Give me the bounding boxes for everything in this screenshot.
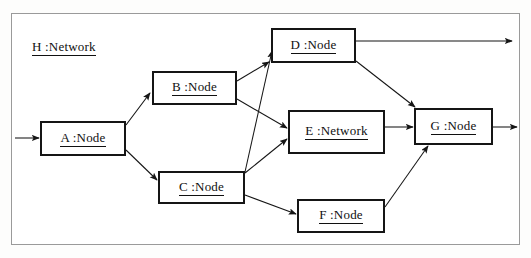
object-node-f[interactable]: F :Node	[297, 199, 385, 233]
container-label-h-network: H :Network	[32, 40, 96, 56]
object-node-label: D :Node	[291, 38, 337, 54]
object-node-g[interactable]: G :Node	[414, 108, 493, 145]
object-node-e[interactable]: E :Network	[288, 110, 385, 154]
object-node-label: F :Node	[319, 208, 363, 224]
object-node-d[interactable]: D :Node	[271, 28, 356, 63]
object-node-label: C :Node	[179, 180, 224, 196]
object-node-a[interactable]: A :Node	[40, 121, 126, 156]
object-diagram-canvas: H :Network A :NodeB :NodeC :NodeD :NodeE…	[0, 0, 531, 258]
object-node-label: A :Node	[60, 131, 105, 147]
object-node-c[interactable]: C :Node	[158, 171, 245, 204]
object-node-b[interactable]: B :Node	[152, 71, 237, 105]
object-node-label: E :Network	[305, 124, 367, 140]
object-node-label: B :Node	[172, 80, 217, 96]
object-node-label: G :Node	[431, 119, 477, 135]
